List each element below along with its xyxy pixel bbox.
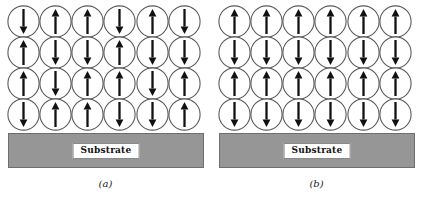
spin-up-icon bbox=[314, 5, 347, 38]
spin-down-icon bbox=[379, 98, 412, 131]
spin-row bbox=[7, 67, 204, 100]
spin-down-icon bbox=[282, 36, 315, 69]
spin-up-icon bbox=[347, 67, 380, 100]
spin-up-icon bbox=[314, 67, 347, 100]
spin-down-icon bbox=[7, 5, 40, 38]
substrate-label-a: Substrate bbox=[73, 143, 140, 159]
spin-up-icon bbox=[103, 36, 136, 69]
spin-up-icon bbox=[39, 5, 72, 38]
spin-up-icon bbox=[168, 67, 201, 100]
spin-up-icon bbox=[7, 67, 40, 100]
spin-down-icon bbox=[314, 98, 347, 131]
spin-down-icon bbox=[347, 98, 380, 131]
spin-down-icon bbox=[136, 98, 169, 131]
spin-down-icon bbox=[347, 36, 380, 69]
spin-up-icon bbox=[347, 5, 380, 38]
spin-down-icon bbox=[103, 5, 136, 38]
spin-down-icon bbox=[282, 98, 315, 131]
spin-row bbox=[7, 5, 204, 38]
spin-up-icon bbox=[103, 67, 136, 100]
spin-up-icon bbox=[250, 5, 283, 38]
substrate-bar-b: Substrate bbox=[219, 133, 415, 168]
spin-up-icon bbox=[379, 5, 412, 38]
spin-row bbox=[7, 36, 204, 69]
spin-down-icon bbox=[39, 36, 72, 69]
spin-up-icon bbox=[218, 5, 251, 38]
spin-row bbox=[218, 67, 415, 100]
spin-down-icon bbox=[39, 67, 72, 100]
spin-down-icon bbox=[168, 36, 201, 69]
spin-row bbox=[218, 36, 415, 69]
spin-up-icon bbox=[71, 98, 104, 131]
spin-up-icon bbox=[168, 98, 201, 131]
spin-lattice-a bbox=[7, 5, 204, 135]
spin-lattice-figure: Substrate (a) Substrate (b) bbox=[0, 0, 423, 199]
spin-down-icon bbox=[168, 5, 201, 38]
spin-down-icon bbox=[136, 36, 169, 69]
spin-up-icon bbox=[7, 36, 40, 69]
spin-down-icon bbox=[71, 36, 104, 69]
panel-b: Substrate (b) bbox=[211, 0, 422, 199]
spin-down-icon bbox=[136, 67, 169, 100]
panel-caption-a: (a) bbox=[0, 178, 211, 189]
substrate-label-b: Substrate bbox=[284, 143, 351, 159]
spin-lattice-b bbox=[218, 5, 415, 135]
panel-caption-b: (b) bbox=[211, 178, 422, 189]
spin-down-icon bbox=[218, 98, 251, 131]
spin-row bbox=[7, 98, 204, 131]
spin-row bbox=[218, 5, 415, 38]
spin-down-icon bbox=[103, 98, 136, 131]
spin-down-icon bbox=[379, 36, 412, 69]
spin-up-icon bbox=[282, 67, 315, 100]
substrate-bar-a: Substrate bbox=[8, 133, 204, 168]
spin-up-icon bbox=[136, 5, 169, 38]
spin-down-icon bbox=[218, 36, 251, 69]
spin-up-icon bbox=[379, 67, 412, 100]
spin-up-icon bbox=[218, 67, 251, 100]
spin-up-icon bbox=[71, 67, 104, 100]
panel-a: Substrate (a) bbox=[0, 0, 211, 199]
spin-up-icon bbox=[71, 5, 104, 38]
spin-down-icon bbox=[250, 98, 283, 131]
spin-down-icon bbox=[250, 36, 283, 69]
spin-row bbox=[218, 98, 415, 131]
spin-up-icon bbox=[250, 67, 283, 100]
spin-down-icon bbox=[7, 98, 40, 131]
spin-up-icon bbox=[282, 5, 315, 38]
spin-down-icon bbox=[314, 36, 347, 69]
spin-up-icon bbox=[39, 98, 72, 131]
